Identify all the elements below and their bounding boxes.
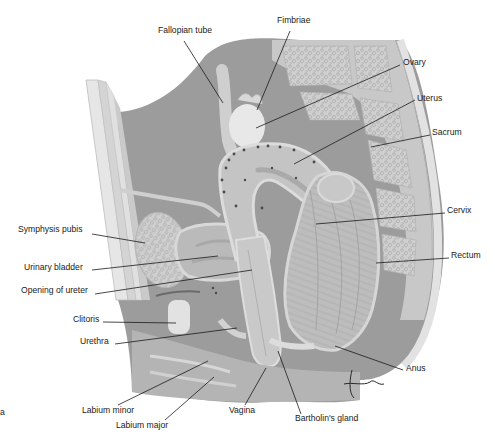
label-labium-major: Labium major: [116, 420, 168, 430]
label-rectum: Rectum: [451, 250, 481, 260]
label-sacrum: Sacrum: [432, 127, 462, 137]
anatomy-figure: Fallopian tube Fimbriae Ovary Uterus Sac…: [0, 0, 495, 442]
label-symphysis-pubis: Symphysis pubis: [18, 224, 82, 234]
label-cervix: Cervix: [447, 205, 471, 215]
label-vagina: Vagina: [229, 405, 255, 415]
label-ovary: Ovary: [403, 57, 426, 67]
label-clitoris: Clitoris: [73, 314, 99, 324]
label-anus: Anus: [406, 363, 426, 373]
label-opening-of-ureter: Opening of ureter: [21, 285, 88, 295]
label-uterus: Uterus: [417, 93, 442, 103]
label-bartholins-gland: Bartholin's gland: [295, 413, 358, 423]
label-urethra: Urethra: [80, 336, 109, 346]
label-fallopian-tube: Fallopian tube: [158, 25, 212, 35]
label-fimbriae: Fimbriae: [277, 15, 310, 25]
stray-mark: a: [0, 407, 5, 417]
label-labium-minor: Labium minor: [82, 405, 134, 415]
label-urinary-bladder: Urinary bladder: [24, 262, 83, 272]
